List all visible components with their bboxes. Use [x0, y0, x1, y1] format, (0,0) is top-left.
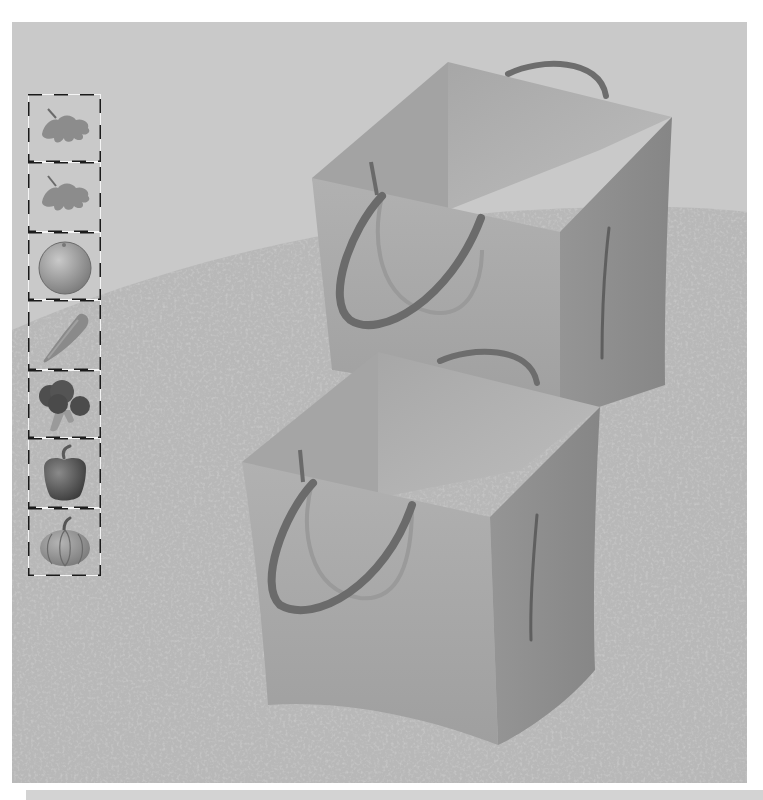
tray-item-orange[interactable]	[28, 232, 101, 300]
tray-item-leaf-1[interactable]: Leaf	[28, 94, 101, 162]
tray-item-carrot[interactable]	[28, 300, 101, 370]
leaf-icon	[42, 109, 89, 143]
tray-item-bell-pepper[interactable]	[28, 438, 101, 508]
bottom-strip	[26, 790, 763, 800]
broccoli-icon	[39, 380, 90, 431]
pumpkin-icon	[40, 518, 90, 566]
orange-icon	[39, 242, 91, 294]
tray-item-broccoli[interactable]	[28, 370, 101, 438]
bell-pepper-icon	[44, 446, 86, 501]
activity-scene	[0, 0, 763, 800]
carrot-icon	[44, 314, 89, 363]
tray-item-leaf-2[interactable]	[28, 162, 101, 232]
leaf-icon	[42, 176, 89, 211]
tray-item-pumpkin[interactable]	[28, 508, 101, 576]
